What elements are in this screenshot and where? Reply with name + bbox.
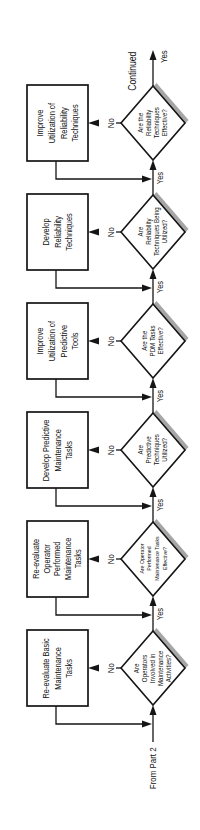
yes-label-text: Yes — [156, 281, 165, 293]
decision-text-1: Are Operators Involved in Maintenance Ac… — [125, 638, 181, 698]
action-text-4: Improve Utilization of Predictive Tools — [27, 303, 88, 379]
yes-label-text: Yes — [156, 172, 165, 184]
yes-label-5: Yes — [155, 168, 166, 188]
decision-text-3: Are Predictive Techniques Utilized? — [125, 420, 181, 480]
action-label: Improve Utilization of Reliability Techn… — [34, 103, 80, 143]
arrowhead-icon — [150, 50, 157, 60]
no-label-4: No — [104, 331, 117, 351]
arrowhead-icon — [88, 665, 99, 672]
no-label-1: No — [104, 658, 117, 678]
yes-label-4: Yes — [155, 277, 166, 297]
exit-label: Continued — [125, 46, 139, 96]
action-text-5: Develop Reliability Techniques — [27, 194, 88, 270]
action-text-2: Re-evaluate Operator Performed Maintenan… — [27, 521, 88, 597]
arrowhead-icon — [142, 503, 152, 510]
entry-label-text: From Part 2 — [148, 747, 158, 789]
decision-label: Are the Reliability Techniques Effective… — [137, 107, 169, 138]
decision-text-2: Are Operator Performed Maintenance Tasks… — [125, 529, 181, 589]
no-label-2: No — [104, 549, 117, 569]
exit-label-text: Continued — [127, 51, 138, 90]
arrowhead-icon — [142, 394, 152, 401]
action-text-6: Improve Utilization of Reliability Techn… — [27, 85, 88, 161]
return-connector-1 — [56, 706, 143, 724]
action-text-3: Develop Predictive Maintenance Tasks — [27, 412, 88, 488]
no-label-5: No — [104, 222, 117, 242]
decision-label: Are Operator Performed Maintenance Tasks… — [138, 537, 168, 581]
yes-label-text: Yes — [159, 51, 169, 64]
action-text-1: Re-evaluate Basic Maintenance Tasks — [27, 630, 88, 706]
arrowhead-icon — [142, 285, 152, 292]
no-label-text: No — [106, 554, 116, 564]
arrowhead-icon — [88, 229, 99, 236]
decision-label: Are Reliability Techniques Being Utilize… — [137, 208, 169, 257]
no-label-3: No — [104, 440, 117, 460]
no-label-text: No — [106, 227, 116, 237]
arrowhead-icon — [142, 176, 152, 183]
no-label-text: No — [106, 663, 116, 673]
decision-label: Are Predictive Techniques Utilized? — [137, 434, 169, 465]
decision-label: Are Operators Involved in Maintenance Ac… — [133, 650, 173, 685]
action-label: Re-evaluate Operator Performed Maintenan… — [31, 538, 84, 580]
no-label-text: No — [106, 336, 116, 346]
no-label-text: No — [106, 445, 116, 455]
arrowhead-icon — [88, 556, 99, 563]
entry-label: From Part 2 — [146, 742, 160, 794]
yes-label-1: Yes — [155, 604, 166, 624]
arrowhead-icon — [142, 721, 152, 728]
yes-label-6: Yes — [158, 47, 170, 67]
decision-text-5: Are Reliability Techniques Being Utilize… — [125, 202, 181, 262]
flowchart-canvas: From Part 2 Continued Re-evaluate Basic … — [0, 0, 200, 830]
yes-label-text: Yes — [156, 390, 165, 402]
return-connector-4 — [56, 379, 143, 397]
arrowhead-icon — [142, 612, 152, 619]
action-label: Develop Predictive Maintenance Tasks — [40, 419, 75, 481]
decision-label: Are the PDM Tasks Effective? — [141, 325, 165, 356]
yes-label-text: Yes — [156, 499, 165, 511]
return-connector-6 — [56, 161, 143, 179]
decision-text-4: Are the PDM Tasks Effective? — [125, 311, 181, 371]
action-label: Improve Utilization of Predictive Tools — [34, 321, 80, 361]
arrowhead-icon — [150, 705, 157, 715]
yes-label-3: Yes — [155, 386, 166, 406]
yes-label-text: Yes — [156, 608, 165, 620]
return-connector-3 — [56, 488, 143, 506]
arrowhead-icon — [88, 120, 99, 127]
arrowhead-icon — [88, 338, 99, 345]
decision-text-6: Are the Reliability Techniques Effective… — [125, 93, 181, 153]
flowchart: From Part 2 Continued Re-evaluate Basic … — [0, 0, 200, 830]
return-connector-2 — [56, 597, 143, 615]
return-connector-5 — [56, 270, 143, 288]
action-label: Re-evaluate Basic Maintenance Tasks — [40, 638, 75, 698]
no-label-6: No — [104, 113, 117, 133]
no-label-text: No — [106, 118, 116, 128]
arrowhead-icon — [88, 447, 99, 454]
yes-label-2: Yes — [155, 495, 166, 515]
action-label: Develop Reliability Techniques — [40, 213, 75, 250]
